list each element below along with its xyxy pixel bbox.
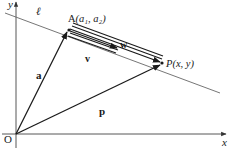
vector-w-label: w (120, 39, 128, 50)
vector-a-label: a (36, 69, 42, 81)
vector-p-label: p (99, 105, 105, 117)
origin-label: O (4, 133, 12, 145)
line-l-label: ℓ (36, 5, 41, 17)
point-a-label: A(a₁, a₂) (68, 13, 106, 25)
point-p (160, 61, 163, 64)
point-p-label: P(x, y) (165, 58, 194, 70)
point-p-coords: (x, y) (172, 58, 194, 70)
point-a (67, 28, 70, 31)
x-axis-label: x (221, 136, 227, 148)
vector-v-label: v (85, 53, 90, 64)
vector-v (68, 31, 118, 53)
line-l (5, 13, 220, 93)
y-axis-label: y (7, 0, 13, 10)
point-a-coords: (a₁, a₂) (76, 13, 107, 25)
vector-a (16, 32, 67, 134)
vector-line-diagram: y x O ℓ A(a₁, a₂) P(x, y) a p v w (0, 0, 229, 149)
